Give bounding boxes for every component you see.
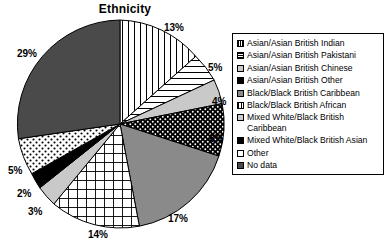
legend-item-mixed-asian[interactable]: Mixed White/Black British Asian <box>237 135 380 145</box>
legend-item-asian-other[interactable]: Asian/Asian British Other <box>237 75 380 85</box>
legend-label: Asian/Asian British Pakistani <box>247 50 356 60</box>
legend-label: No data <box>247 160 277 170</box>
legend-item-no-data[interactable]: No data <box>237 160 380 170</box>
legend-swatch-black-dots-icon <box>237 77 244 84</box>
legend-item-mixed-caribbean[interactable]: Mixed White/Black British Caribbean <box>237 112 380 133</box>
legend-item-other[interactable]: Other <box>237 148 380 158</box>
legend-swatch-light-gray-icon <box>237 65 244 72</box>
legend-label: Black/Black British Caribbean <box>247 88 360 98</box>
legend-label: Asian/Asian British Other <box>247 75 343 85</box>
legend-swatch-light-gray-icon <box>237 114 244 121</box>
pie-label-5-pakistani: 5% <box>208 62 222 73</box>
pie-label-2: 2% <box>17 188 31 199</box>
legend-item-asian-indian[interactable]: Asian/Asian British Indian <box>237 38 380 48</box>
pie-chart <box>14 18 226 230</box>
legend-item-black-caribbean[interactable]: Black/Black British Caribbean <box>237 88 380 98</box>
pie-slice-no-data <box>17 20 120 139</box>
legend-label: Asian/Asian British Chinese <box>247 63 353 73</box>
legend-item-black-african[interactable]: Black/Black British African <box>237 100 380 110</box>
legend-label: Mixed White/Black British Caribbean <box>247 112 344 133</box>
pie-label-17: 17% <box>168 213 188 224</box>
legend-label: Mixed White/Black British Asian <box>247 135 367 145</box>
pie-label-8: 8% <box>209 133 223 144</box>
pie-label-3: 3% <box>28 206 42 217</box>
legend-swatch-medium-gray-icon <box>237 90 244 97</box>
legend-item-asian-chinese[interactable]: Asian/Asian British Chinese <box>237 63 380 73</box>
legend-label: Asian/Asian British Indian <box>247 38 344 48</box>
pie-label-29: 29% <box>17 48 37 59</box>
legend-swatch-horizontal-lines-icon <box>237 52 244 59</box>
legend-swatch-vertical-lines-icon <box>237 40 244 47</box>
legend-swatch-white-dots-icon <box>237 150 244 157</box>
legend-label: Other <box>247 148 269 158</box>
chart-title: Ethnicity <box>60 2 190 16</box>
legend-label: Black/Black British African <box>247 100 346 110</box>
pie-label-13: 13% <box>164 22 184 33</box>
legend-swatch-crosshatch-icon <box>237 102 244 109</box>
chart-legend: Asian/Asian British Indian Asian/Asian B… <box>232 33 384 175</box>
pie-label-4: 4% <box>212 96 226 107</box>
legend-swatch-dark-gray-icon <box>237 162 244 169</box>
pie-label-5-other: 5% <box>8 165 22 176</box>
legend-item-asian-pakistani[interactable]: Asian/Asian British Pakistani <box>237 50 380 60</box>
pie-label-14: 14% <box>88 229 108 240</box>
pie-svg <box>14 18 226 230</box>
legend-swatch-solid-black-icon <box>237 137 244 144</box>
chart-container: Ethnicity <box>0 0 388 248</box>
